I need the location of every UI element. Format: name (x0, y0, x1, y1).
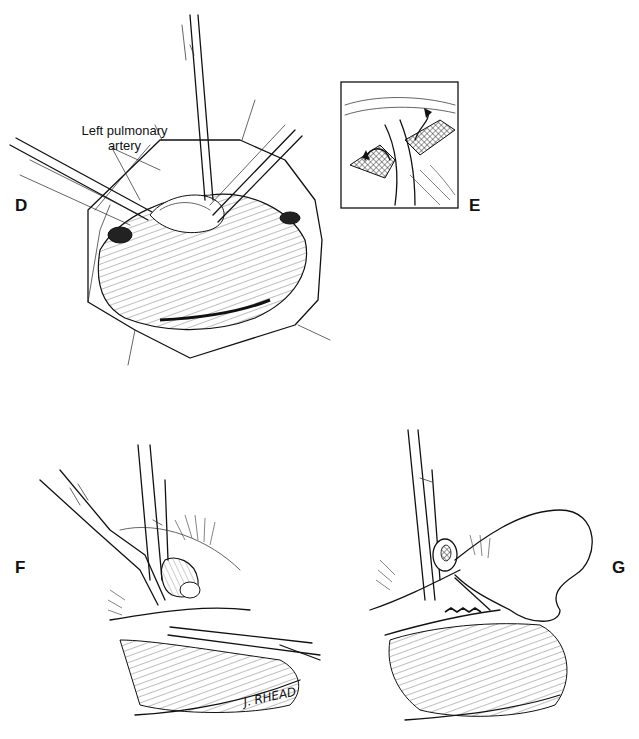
annotation-left-pulmonary-artery: Left pulmonary artery (72, 123, 177, 153)
figure-illustration (0, 0, 639, 739)
annotation-line-2: artery (72, 138, 177, 153)
panel-label-f: F (15, 558, 25, 578)
panel-e-drawing (341, 82, 458, 208)
panel-g-drawing (370, 430, 592, 720)
panel-label-g: G (612, 558, 625, 578)
panel-label-e: E (469, 196, 480, 216)
panel-label-d: D (15, 196, 27, 216)
panel-d-drawing (10, 15, 330, 365)
annotation-line-1: Left pulmonary (72, 123, 177, 138)
panel-f-drawing (40, 445, 320, 715)
